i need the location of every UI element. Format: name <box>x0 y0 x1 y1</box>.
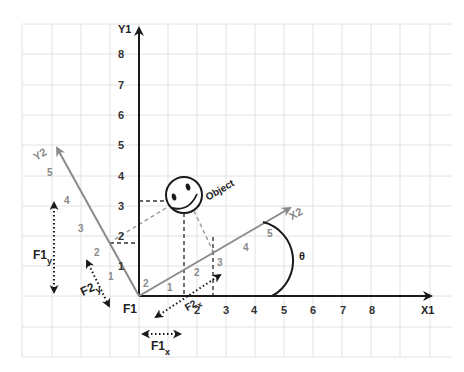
f1y-label: F1y <box>33 248 52 266</box>
svg-text:5: 5 <box>118 139 124 151</box>
origin-label: F1 <box>123 302 137 316</box>
svg-text:5: 5 <box>281 304 287 316</box>
svg-text:6: 6 <box>118 109 124 121</box>
svg-text:2: 2 <box>194 267 200 278</box>
svg-text:5: 5 <box>267 228 273 239</box>
y1-axis-label: Y1 <box>118 23 131 35</box>
svg-text:4: 4 <box>243 242 249 253</box>
svg-text:8: 8 <box>118 48 124 60</box>
y1-ticks: 1 2 3 4 5 6 7 8 <box>118 48 125 272</box>
svg-text:2: 2 <box>94 247 100 258</box>
y2-axis-label: Y2 <box>31 146 49 163</box>
svg-text:3: 3 <box>223 304 229 316</box>
svg-text:2: 2 <box>118 230 124 242</box>
y2-axis <box>57 148 139 296</box>
svg-text:5: 5 <box>47 167 53 178</box>
x2-ticks: 1 2 3 4 5 <box>167 228 273 293</box>
svg-text:3: 3 <box>118 200 124 212</box>
smiley-object-icon <box>166 177 202 213</box>
object-label: Object <box>204 177 237 202</box>
x1-axis-label: X1 <box>421 304 434 316</box>
svg-text:6: 6 <box>310 304 316 316</box>
svg-text:3: 3 <box>217 257 223 268</box>
svg-text:1: 1 <box>167 282 173 293</box>
f1x-label: F1x <box>151 339 170 357</box>
svg-text:4: 4 <box>118 170 125 182</box>
svg-text:7: 7 <box>118 79 124 91</box>
svg-text:2: 2 <box>143 278 149 289</box>
f2y-label: F2y <box>78 278 102 301</box>
coordinate-frame-diagram: Y1 X1 F1 1 2 3 4 5 6 7 8 1 2 3 4 5 6 7 8… <box>0 0 464 372</box>
grid <box>22 24 452 357</box>
svg-text:8: 8 <box>369 304 375 316</box>
x2-axis <box>139 208 290 296</box>
svg-text:4: 4 <box>64 195 70 206</box>
svg-text:1: 1 <box>118 260 124 272</box>
svg-text:7: 7 <box>340 304 346 316</box>
svg-text:3: 3 <box>78 223 84 234</box>
svg-text:4: 4 <box>251 304 258 316</box>
theta-label: θ <box>299 250 305 262</box>
svg-text:1: 1 <box>108 271 114 282</box>
